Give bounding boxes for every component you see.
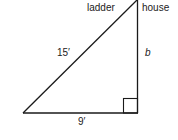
house-label: house: [142, 3, 169, 13]
height-variable-label: b: [145, 48, 151, 58]
triangle-diagram: [0, 0, 178, 140]
right-angle-marker: [124, 99, 138, 114]
hypotenuse-length-label: 15′: [57, 48, 70, 58]
ladder-label: ladder: [87, 3, 115, 13]
base-length-label: 9′: [78, 117, 85, 127]
ladder-hypotenuse: [23, 0, 137, 113]
